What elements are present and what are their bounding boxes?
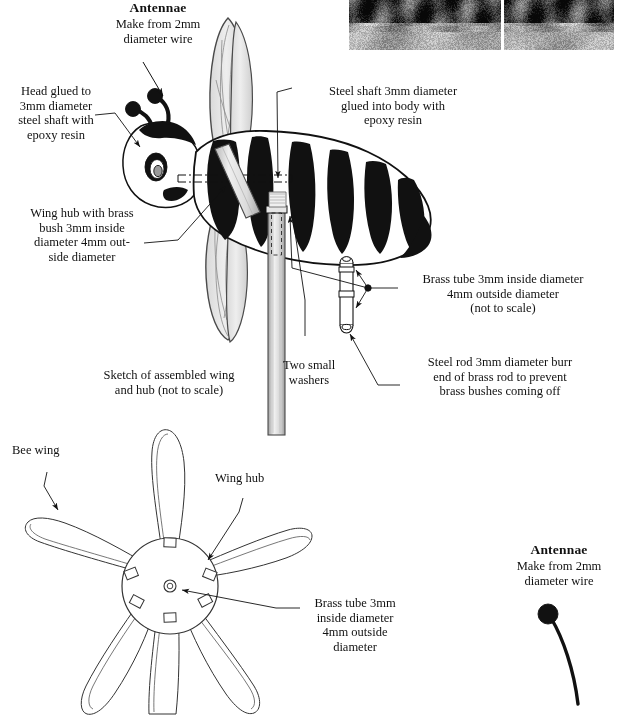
bee-wing-label: Bee wing — [12, 443, 102, 458]
steel-shaft-label: Steel shaft 3mm diameter glued into body… — [303, 84, 483, 128]
antennae-heading-bottom: Antennae — [500, 543, 617, 558]
bee-head — [123, 121, 202, 208]
antenna-ball-left — [126, 102, 141, 117]
wing-hub-label: Wing hub — [215, 471, 295, 486]
leader-steel-rod-burr — [350, 334, 400, 385]
wing-hub-bush-label: Wing hub with brass bush 3mm inside diam… — [20, 206, 144, 264]
diagram-canvas: Antennae Make from 2mm diameter wire Hea… — [0, 0, 617, 719]
sketch-caption: Sketch of assembled wing and hub (not to… — [82, 368, 256, 397]
antennae-body-top: Make from 2mm diameter wire — [83, 17, 233, 46]
two-washers-label: Two small washers — [270, 358, 348, 387]
vertical-steel-shaft — [266, 192, 287, 435]
brass-tube-upper-label: Brass tube 3mm inside diameter 4mm outsi… — [399, 272, 607, 316]
leader-bee-wing — [44, 472, 58, 510]
antennae-heading-top: Antennae — [88, 1, 228, 16]
brass-tube-detail — [339, 257, 354, 333]
antennae-body-bottom: Make from 2mm diameter wire — [500, 559, 617, 588]
antenna-sample — [538, 604, 578, 704]
brass-tube-lower-label: Brass tube 3mm inside diameter 4mm outsi… — [300, 596, 410, 654]
steel-rod-burr-label: Steel rod 3mm diameter burr end of brass… — [400, 355, 600, 399]
head-glued-label: Head glued to 3mm diameter steel shaft w… — [0, 84, 112, 142]
